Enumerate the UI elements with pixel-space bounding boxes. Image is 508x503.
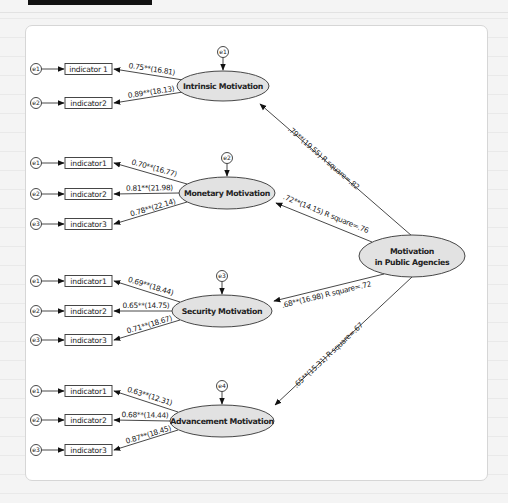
error-label: e1 [32,277,40,284]
error-label: e1 [32,387,40,394]
path-coefficient-label: .65**(15.31) R square=.67 [292,320,365,389]
loading-label: 0.87**(18.45) [125,423,173,445]
measurement-error-icon: e3 [31,335,42,346]
indicator-row: e1indicator10.69**(18.44) [31,275,181,302]
loading-path [114,193,179,194]
error-label: e2 [32,307,40,314]
measurement-error-icon: e3 [31,219,42,230]
measurement-error-icon: e1 [31,64,42,75]
central-label-line1: Motivation [390,247,434,256]
indicator-label: indicator2 [70,307,107,316]
measurement-error-icon: e1 [31,276,42,287]
error-label: e2 [32,99,40,106]
measurement-error-icon: e2 [31,189,42,200]
indicator-row: e2indicator20.65**(14.75) [31,301,173,317]
loading-path [114,420,170,421]
indicator-row: e1indicator 10.75**(16.81) [31,61,184,80]
central-label-line2: in Public Agencies [375,258,450,267]
sem-path-diagram: .79**(19.55) R square=.82.72**(14.15) R … [0,0,508,503]
measurement-error-icon: e1 [31,386,42,397]
factor-intrinsic: e1e1indicator 10.75**(16.81)e2indicator2… [31,47,270,109]
loading-label: 0.81**(21.98) [126,183,173,193]
indicator-label: indicator 1 [69,65,108,74]
error-label: e1 [32,159,40,166]
error-label: e2 [32,416,40,423]
error-label: e3 [218,272,226,279]
disturbance-error-icon: e1 [218,47,229,58]
indicator-row: e3indicator30.78**(22.14) [31,197,188,230]
indicator-label: indicator3 [70,220,107,229]
indicator-label: indicator2 [70,416,107,425]
indicator-label: indicator2 [70,99,107,108]
indicator-row: e2indicator20.81**(21.98) [31,183,180,199]
loading-label: 0.69**(18.44) [127,275,175,298]
indicator-row: e2indicator20.68**(14.44) [31,410,171,425]
central-ellipse [359,235,465,277]
indicator-label: indicator2 [70,190,107,199]
loading-label: 0.63**(12.31) [126,385,174,408]
indicator-row: e1indicator10.70**(16.77) [31,157,188,184]
indicator-label: indicator1 [70,159,107,168]
error-label: e1 [219,48,227,55]
latent-label: Intrinsic Motivation [183,82,263,91]
measurement-error-icon: e2 [31,98,42,109]
disturbance-error-icon: e3 [217,271,228,282]
factor-advancement: e4e1indicator10.63**(12.31)e2indicator20… [31,381,275,456]
indicator-label: indicator1 [70,277,107,286]
error-label: e4 [218,382,226,389]
indicator-row: e2indicator20.89**(18.13) [31,84,184,109]
error-label: e2 [32,190,40,197]
error-label: e1 [32,65,40,72]
loading-label: 0.68**(14.44) [122,410,169,420]
latent-label: Security Motivation [182,307,263,316]
indicator-label: indicator1 [70,387,107,396]
latent-factors: e1e1indicator 10.75**(16.81)e2indicator2… [31,47,276,456]
error-label: e3 [32,220,40,227]
measurement-error-icon: e2 [31,415,42,426]
path-coefficient-label: .79**(19.55) R square=.82 [286,125,361,192]
disturbance-error-icon: e4 [217,381,228,392]
loading-label: 0.65**(14.75) [123,301,170,310]
error-label: e3 [32,336,40,343]
disturbance-error-icon: e2 [222,153,233,164]
loading-label: 0.89**(18.13) [127,84,175,100]
latent-label: Advancement Motivation [170,417,273,426]
indicator-label: indicator3 [70,336,107,345]
central-construct: Motivationin Public Agencies [359,235,465,277]
measurement-error-icon: e2 [31,306,42,317]
error-label: e2 [223,154,231,161]
measurement-error-icon: e1 [31,158,42,169]
factor-security: e3e1indicator10.69**(18.44)e2indicator20… [31,271,273,346]
error-label: e3 [32,446,40,453]
latent-label: Monetary Motivation [184,189,270,198]
indicator-row: e3indicator30.87**(18.45) [31,423,179,455]
indicator-row: e3indicator30.71**(18.67) [31,314,181,346]
loading-label: 0.70**(16.77) [130,157,178,178]
path-coefficient-label: .68**(16.98) R square=.72 [281,279,372,310]
factor-monetary: e2e1indicator10.70**(16.77)e2indicator20… [31,153,276,230]
indicator-row: e1indicator10.63**(12.31) [31,385,179,412]
path-coefficient-label: .72**(14.15) R square=.76 [282,192,371,235]
indicator-label: indicator3 [70,446,107,455]
measurement-error-icon: e3 [31,445,42,456]
